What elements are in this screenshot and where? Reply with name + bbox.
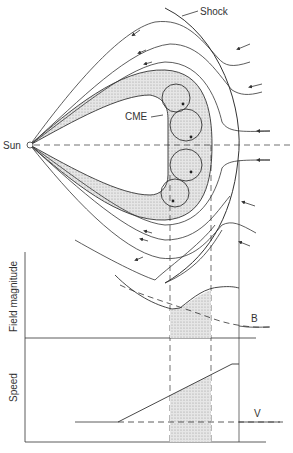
sun-label: Sun: [3, 140, 21, 151]
b-label: B: [251, 313, 258, 324]
shock-label: Shock: [200, 6, 229, 17]
cme-label: CME: [125, 111, 148, 122]
field-lines: [30, 21, 270, 283]
field-magnitude-panel: B Field magnitude: [8, 252, 270, 442]
v-label: V: [254, 408, 261, 419]
speed-axis-label: Speed: [8, 373, 19, 402]
cme-shock-diagram: Shock Sun CME B Field magnitude V Speed: [0, 0, 293, 453]
sun: Sun: [3, 140, 33, 151]
speed-panel: V Speed: [8, 364, 283, 442]
field-axis-label: Field magnitude: [8, 260, 19, 332]
b-shaded-area: [170, 290, 211, 338]
